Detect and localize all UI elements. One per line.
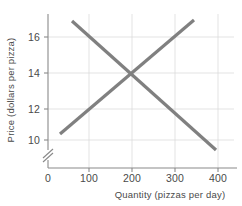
- y-tick-label-16: 16: [28, 31, 40, 43]
- x-tick-marks: [89, 168, 218, 172]
- x-tick-label-300: 300: [166, 172, 184, 184]
- x-tick-label-100: 100: [80, 172, 98, 184]
- chart-canvas: 16 14 12 10 0 100 200 300 400 Quantity (…: [0, 0, 242, 206]
- y-tick-label-10: 10: [28, 134, 40, 146]
- x-tick-label-400: 400: [209, 172, 227, 184]
- x-tick-label-200: 200: [123, 172, 141, 184]
- supply-demand-chart: 16 14 12 10 0 100 200 300 400 Quantity (…: [0, 0, 242, 206]
- y-tick-marks: [44, 37, 48, 140]
- y-tick-label-12: 12: [28, 103, 40, 115]
- gridlines-horizontal: [48, 37, 234, 140]
- y-axis-title: Price (dollars per pizza): [5, 38, 16, 143]
- y-tick-label-14: 14: [28, 67, 40, 79]
- demand-curve: [72, 21, 216, 150]
- x-axis-title: Quantity (pizzas per day): [115, 189, 226, 200]
- x-tick-label-0: 0: [45, 172, 51, 184]
